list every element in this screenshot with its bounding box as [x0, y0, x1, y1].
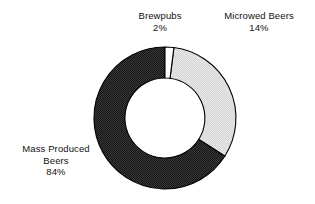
slice-label-microwed-beers-name: Microwed Beers	[205, 10, 313, 22]
donut-chart-figure: Brewpubs 2% Microwed Beers 14% Mass Prod…	[0, 0, 315, 204]
slice-label-mass-produced-beers: Mass Produced Beers 84%	[2, 143, 110, 178]
slice-label-brewpubs-name: Brewpubs	[112, 10, 208, 22]
slice-label-microwed-beers-value: 14%	[205, 22, 313, 34]
slice-label-mass-produced-beers-name2: Beers	[2, 155, 110, 167]
slice-label-mass-produced-beers-name: Mass Produced	[2, 143, 110, 155]
pie-slice-microwed-beers	[170, 48, 236, 156]
slice-label-brewpubs-value: 2%	[112, 22, 208, 34]
slice-label-brewpubs: Brewpubs 2%	[112, 10, 208, 33]
donut-svg	[94, 47, 236, 189]
slice-label-microwed-beers: Microwed Beers 14%	[205, 10, 313, 33]
donut-graphic	[94, 47, 236, 189]
slice-label-mass-produced-beers-value: 84%	[2, 166, 110, 178]
